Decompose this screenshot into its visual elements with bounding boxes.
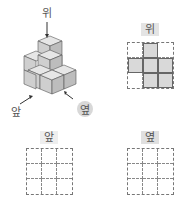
front-view-cell[interactable] (57, 179, 72, 194)
side-view-label: 옆 (141, 131, 159, 144)
side-view-cell[interactable] (158, 149, 173, 164)
front-view-cell[interactable] (27, 149, 42, 164)
side-view-grid[interactable] (127, 148, 174, 195)
side-view-cell[interactable] (128, 179, 143, 194)
top-view-cell (143, 58, 158, 73)
side-view-cell[interactable] (158, 164, 173, 179)
side-direction-label: 옆 (77, 101, 93, 117)
top-view-cell (128, 73, 143, 88)
top-view-cell (143, 73, 158, 88)
side-view-cell[interactable] (143, 164, 158, 179)
top-view-cell (128, 43, 143, 58)
front-view-cell[interactable] (27, 164, 42, 179)
front-view-cell[interactable] (42, 164, 57, 179)
side-view-cell[interactable] (143, 179, 158, 194)
top-view-cell (158, 58, 173, 73)
top-view-cell (128, 58, 143, 73)
front-view-grid[interactable] (26, 148, 73, 195)
side-view-cell[interactable] (143, 149, 158, 164)
front-view-cell[interactable] (27, 179, 42, 194)
front-view-cell[interactable] (42, 149, 57, 164)
front-view-cell[interactable] (57, 164, 72, 179)
top-view-cell (143, 43, 158, 58)
top-direction-label: 위 (39, 4, 55, 20)
front-view-cell[interactable] (42, 179, 57, 194)
side-view-cell[interactable] (128, 164, 143, 179)
top-view-label: 위 (141, 23, 159, 36)
side-view-cell[interactable] (158, 179, 173, 194)
top-view-grid (127, 42, 174, 89)
front-direction-label: 앞 (8, 103, 24, 119)
front-view-cell[interactable] (57, 149, 72, 164)
side-view-cell[interactable] (128, 149, 143, 164)
top-view-cell (158, 73, 173, 88)
top-view-cell (158, 43, 173, 58)
front-view-label: 앞 (40, 131, 58, 144)
